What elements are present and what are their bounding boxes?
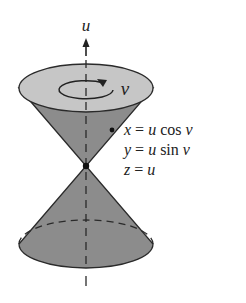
equation-y: y = u sin v — [122, 141, 191, 159]
equation-z: z = u — [123, 161, 155, 178]
parametric-equations: x = u cos v y = u sin v z = u — [122, 121, 193, 178]
axis-arrow-icon — [83, 38, 90, 56]
surface-point — [110, 128, 115, 133]
axis-label-u: u — [82, 16, 91, 35]
rotation-label-v: v — [121, 78, 130, 99]
vertex-point — [83, 163, 89, 169]
equation-x: x = u cos v — [123, 121, 193, 138]
double-cone-diagram: u v x = u cos v y = u sin v z = u — [0, 0, 246, 303]
